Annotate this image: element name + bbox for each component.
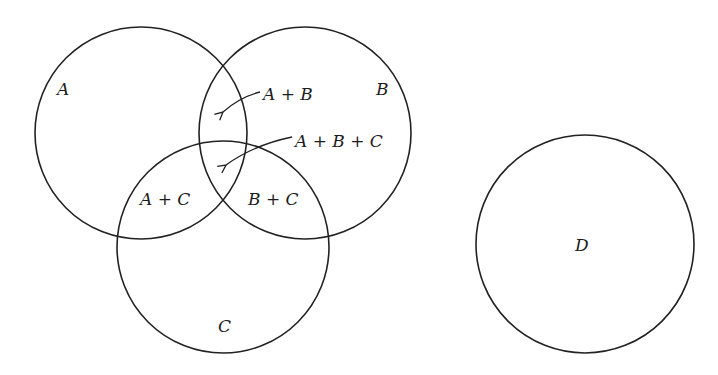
label-a-plus-c: A + C	[138, 189, 190, 209]
label-b: B	[375, 79, 389, 99]
label-d: D	[574, 235, 589, 255]
venn-diagram: A B C D A + B A + B + C A + C B + C	[0, 0, 718, 375]
label-a: A	[55, 79, 69, 99]
label-a-plus-b-plus-c: A + B + C	[293, 131, 383, 151]
label-a-plus-b: A + B	[261, 84, 313, 104]
label-b-plus-c: B + C	[247, 189, 299, 209]
arrow-a-plus-b-icon	[223, 92, 260, 112]
label-c: C	[218, 316, 231, 336]
